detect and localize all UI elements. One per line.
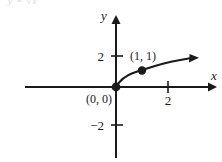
point-label-one-one: (1, 1) — [130, 49, 156, 63]
cartesian-plot-svg: y x 2 −2 2 (0, 0) (1, 1) — [0, 0, 222, 162]
y-tick-label-negative-2: −2 — [90, 118, 104, 133]
data-point-one-one — [138, 66, 146, 74]
data-point-origin — [112, 83, 121, 92]
cropped-equation-fragment: y = √x — [8, 0, 38, 6]
y-axis-arrowhead — [112, 15, 121, 24]
x-axis-label: x — [210, 68, 217, 83]
x-axis-arrowhead — [208, 83, 217, 92]
y-axis-label: y — [99, 8, 107, 23]
x-tick-label-2: 2 — [165, 93, 172, 108]
curve-arrowhead — [189, 54, 199, 63]
square-root-function-graph: y = √x y x 2 −2 2 (0, 0) (1, 1) — [0, 0, 222, 162]
point-label-origin: (0, 0) — [86, 92, 112, 106]
y-tick-label-2: 2 — [98, 49, 105, 64]
